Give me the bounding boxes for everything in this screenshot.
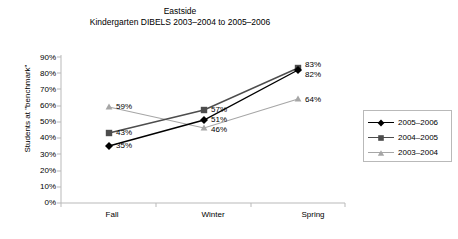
series-marker-2005-2006 <box>105 142 113 150</box>
legend-label: 2003–2004 <box>394 148 438 157</box>
series-marker-2004-2005 <box>201 107 207 113</box>
legend-marker-square-icon <box>368 132 394 144</box>
chart-legend: 2005–2006 2004–2005 2003–2004 <box>363 110 452 162</box>
legend-marker-triangle-icon <box>368 147 394 159</box>
series-marker-2003-2004 <box>295 96 302 102</box>
legend-item-2004-2005[interactable]: 2004–2005 <box>364 130 451 145</box>
plot-svg <box>0 0 360 239</box>
legend-item-2003-2004[interactable]: 2003–2004 <box>364 145 451 160</box>
data-label-fall-2005-2006: 35% <box>116 141 132 150</box>
legend-marker-diamond-icon <box>368 117 394 129</box>
data-label-spring-2003-2004: 64% <box>305 95 321 104</box>
series-marker-2004-2005 <box>106 130 112 136</box>
plot-area: Students at "benchmark" 90% 80% 70% 60% … <box>0 0 360 239</box>
data-label-fall-2003-2004: 59% <box>116 102 132 111</box>
legend-item-2005-2006[interactable]: 2005–2006 <box>364 115 451 130</box>
data-label-spring-2004-2005: 83% <box>305 60 321 69</box>
data-label-winter-2005-2006: 51% <box>211 115 227 124</box>
legend-label: 2005–2006 <box>394 118 438 127</box>
series-line-2003-2004 <box>109 99 298 128</box>
chart-container: Eastside Kindergarten DIBELS 2003–2004 t… <box>0 0 458 239</box>
series-marker-2003-2004 <box>106 104 113 110</box>
data-label-spring-2005-2006: 82% <box>305 70 321 79</box>
data-label-winter-2003-2004: 46% <box>211 125 227 134</box>
legend-label: 2004–2005 <box>394 133 438 142</box>
data-label-fall-2004-2005: 43% <box>116 128 132 137</box>
data-label-winter-2004-2005: 57% <box>211 105 227 114</box>
series-marker-2005-2006 <box>200 116 208 124</box>
